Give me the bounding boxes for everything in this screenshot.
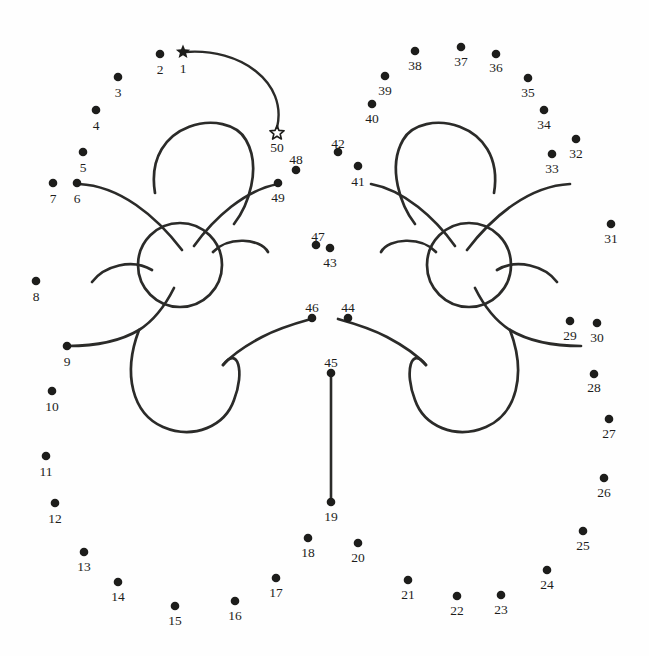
puzzle-dot-18[interactable] [304, 534, 313, 543]
dot-number-label-23: 23 [494, 602, 508, 617]
puzzle-dot-2[interactable] [156, 50, 165, 59]
puzzle-dot-26[interactable] [600, 474, 609, 483]
dot-number-label-45: 45 [324, 355, 338, 370]
right-butterfly-stroke-6 [497, 264, 557, 282]
dot-number-label-47: 47 [311, 229, 325, 244]
dot-number-label-31: 31 [604, 231, 618, 246]
puzzle-dot-14[interactable] [114, 578, 123, 587]
dot-number-label-35: 35 [521, 85, 535, 100]
puzzle-dot-23[interactable] [497, 591, 506, 600]
puzzle-dot-12[interactable] [51, 499, 60, 508]
puzzle-dot-8[interactable] [32, 277, 41, 286]
puzzle-dot-5[interactable] [79, 148, 88, 157]
connect-the-dots-canvas: 1234567891011121314151617181920212223242… [0, 0, 649, 656]
dot-number-label-49: 49 [271, 190, 285, 205]
dot-number-label-17: 17 [269, 585, 283, 600]
dots-layer [32, 43, 616, 611]
left-butterfly [68, 123, 311, 432]
puzzle-dot-10[interactable] [48, 387, 57, 396]
puzzle-dot-39[interactable] [381, 72, 390, 81]
dot-number-label-16: 16 [228, 608, 242, 623]
puzzle-dot-28[interactable] [590, 370, 599, 379]
dot-number-label-20: 20 [351, 550, 365, 565]
puzzle-dot-31[interactable] [607, 220, 616, 229]
dot-number-label-29: 29 [563, 328, 577, 343]
dot-number-label-11: 11 [40, 464, 53, 479]
dot-number-label-26: 26 [597, 485, 611, 500]
puzzle-dot-40[interactable] [368, 100, 377, 109]
puzzle-dot-13[interactable] [80, 548, 89, 557]
butterfly-figures-layer [68, 123, 581, 432]
dot-number-label-50: 50 [270, 140, 284, 155]
left-butterfly-stroke-7 [213, 241, 268, 252]
left-butterfly-stroke-4 [223, 319, 311, 365]
dot-number-label-8: 8 [33, 289, 40, 304]
left-butterfly-stroke-5 [131, 330, 239, 432]
puzzle-dot-19[interactable] [327, 498, 336, 507]
dot-number-label-7: 7 [50, 191, 57, 206]
dot-number-label-33: 33 [545, 161, 559, 176]
left-butterfly-stroke-1 [79, 184, 182, 250]
dot-number-label-15: 15 [168, 613, 182, 628]
dot-number-label-14: 14 [111, 589, 125, 604]
dot-number-label-38: 38 [408, 58, 422, 73]
puzzle-dot-20[interactable] [354, 539, 363, 548]
puzzle-dot-30[interactable] [593, 319, 602, 328]
dot-number-label-9: 9 [64, 354, 71, 369]
puzzle-dot-22[interactable] [453, 592, 462, 601]
dot-number-label-19: 19 [324, 509, 338, 524]
puzzle-dot-49[interactable] [274, 179, 283, 188]
dot-number-label-37: 37 [454, 54, 468, 69]
puzzle-dot-35[interactable] [524, 74, 533, 83]
left-butterfly-body-circle [138, 223, 222, 307]
puzzle-dot-16[interactable] [231, 597, 240, 606]
puzzle-dot-3[interactable] [114, 73, 123, 82]
puzzle-dot-6[interactable] [73, 179, 82, 188]
dot-number-label-44: 44 [341, 300, 355, 315]
dot-labels-layer: 1234567891011121314151617181920212223242… [33, 54, 618, 628]
puzzle-dot-11[interactable] [42, 452, 51, 461]
puzzle-dot-36[interactable] [492, 50, 501, 59]
dot-number-label-34: 34 [537, 117, 551, 132]
puzzle-dot-27[interactable] [605, 415, 614, 424]
puzzle-dot-9[interactable] [63, 342, 72, 351]
dot-number-label-18: 18 [301, 545, 315, 560]
puzzle-dot-24[interactable] [543, 566, 552, 575]
puzzle-dot-4[interactable] [92, 106, 101, 115]
puzzle-dot-29[interactable] [566, 317, 575, 326]
end-star-marker-50[interactable] [270, 126, 284, 140]
puzzle-dot-32[interactable] [572, 135, 581, 144]
puzzle-dot-21[interactable] [404, 576, 413, 585]
dot-number-label-3: 3 [115, 85, 122, 100]
puzzle-dot-15[interactable] [171, 602, 180, 611]
puzzle-dot-38[interactable] [411, 47, 420, 56]
dot-number-label-46: 46 [305, 300, 319, 315]
dot-number-label-27: 27 [602, 426, 616, 441]
dot-number-label-40: 40 [365, 111, 379, 126]
dot-number-label-42: 42 [331, 136, 345, 151]
puzzle-illustration: 1234567891011121314151617181920212223242… [0, 0, 649, 656]
dot-number-label-10: 10 [45, 399, 59, 414]
right-butterfly-stroke-4 [338, 319, 426, 365]
dot-number-label-13: 13 [77, 559, 91, 574]
puzzle-dot-33[interactable] [548, 150, 557, 159]
dot-number-label-41: 41 [351, 174, 365, 189]
puzzle-dot-7[interactable] [49, 179, 58, 188]
dot-number-label-36: 36 [489, 60, 503, 75]
dot-number-label-4: 4 [93, 118, 100, 133]
puzzle-dot-37[interactable] [457, 43, 466, 52]
puzzle-dot-25[interactable] [579, 527, 588, 536]
dot-number-label-12: 12 [48, 511, 62, 526]
puzzle-dot-17[interactable] [272, 574, 281, 583]
puzzle-dot-41[interactable] [354, 162, 363, 171]
start-to-end-guide-arc [186, 52, 279, 128]
dot-number-label-6: 6 [74, 191, 81, 206]
start-star-marker-1[interactable] [176, 45, 190, 59]
puzzle-dot-34[interactable] [540, 106, 549, 115]
right-butterfly-stroke-7 [381, 241, 436, 252]
dot-number-label-22: 22 [450, 603, 464, 618]
guide-arc-layer [186, 52, 279, 128]
left-butterfly-stroke-0 [154, 123, 253, 224]
left-butterfly-stroke-6 [92, 264, 152, 282]
puzzle-dot-43[interactable] [326, 244, 335, 253]
